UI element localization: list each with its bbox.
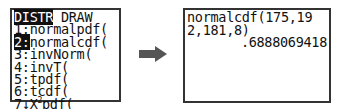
calculator-result-screen: normalcdf(175,19 2,181,8) .6888069418 [183, 8, 331, 103]
item-number: 7 [14, 96, 22, 109]
menu-item-chisquare-pdf[interactable]: 7↓X2pdf( [14, 98, 117, 109]
right-arrow-icon [139, 46, 169, 62]
item-label: pdf( [42, 96, 73, 109]
result-value: .6888069418 [187, 36, 327, 49]
scroll-down-arrow-icon: ↓ [22, 96, 30, 109]
calculator-menu-screen: DISTR DRAW 1:normalpdf( 2:normalcdf( 3:i… [10, 8, 121, 102]
